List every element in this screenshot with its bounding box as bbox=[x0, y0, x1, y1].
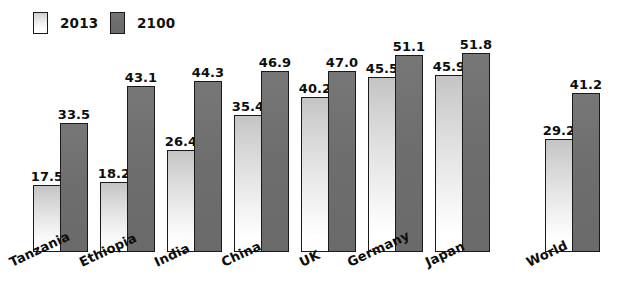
bar-value-india-2013: 26.4 bbox=[165, 134, 197, 149]
bar-value-india-2100: 44.3 bbox=[192, 65, 224, 80]
bar-value-china-2100: 46.9 bbox=[259, 55, 291, 70]
bar-value-tanzania-2013: 17.5 bbox=[31, 169, 63, 184]
bar-value-uk-2013: 40.2 bbox=[299, 81, 331, 96]
bar-value-ethiopia-2100: 43.1 bbox=[125, 70, 157, 85]
bar-value-japan-2100: 51.8 bbox=[460, 37, 492, 52]
bar-value-uk-2100: 47.0 bbox=[326, 55, 358, 70]
bar-ethiopia-2100: 43.1 bbox=[127, 86, 155, 252]
bar-india-2100: 44.3 bbox=[194, 81, 222, 252]
bar-value-tanzania-2100: 33.5 bbox=[58, 107, 90, 122]
bar-value-china-2013: 35.4 bbox=[232, 99, 264, 114]
plot-area: 17.5 33.5 18.2 43.1 26.4 44.3 bbox=[0, 0, 619, 306]
bar-china-2100: 46.9 bbox=[261, 71, 289, 252]
bar-value-japan-2013: 45.9 bbox=[433, 59, 465, 74]
bar-uk-2013: 40.2 bbox=[301, 97, 329, 252]
bar-germany-2100: 51.1 bbox=[395, 55, 423, 252]
bar-value-world-2013: 29.2 bbox=[543, 123, 575, 138]
bar-china-2013: 35.4 bbox=[234, 115, 262, 252]
bar-value-germany-2100: 51.1 bbox=[393, 39, 425, 54]
bar-chart: 2013 2100 17.5 33.5 18.2 43.1 bbox=[0, 0, 619, 306]
bar-value-ethiopia-2013: 18.2 bbox=[98, 166, 130, 181]
bar-japan-2100: 51.8 bbox=[462, 53, 490, 252]
bar-world-2100: 41.2 bbox=[572, 93, 600, 252]
bar-world-2013: 29.2 bbox=[545, 139, 573, 252]
bar-india-2013: 26.4 bbox=[167, 150, 195, 252]
bar-value-germany-2013: 45.5 bbox=[366, 61, 398, 76]
bar-uk-2100: 47.0 bbox=[328, 71, 356, 252]
bar-germany-2013: 45.5 bbox=[368, 77, 396, 252]
bar-japan-2013: 45.9 bbox=[435, 75, 463, 252]
bar-value-world-2100: 41.2 bbox=[570, 77, 602, 92]
